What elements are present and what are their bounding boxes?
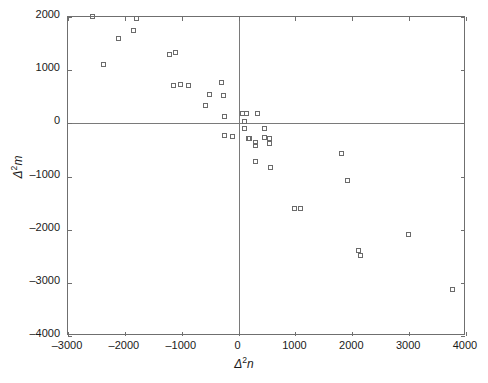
x-axis-tick [125, 332, 126, 336]
y-axis-tick [68, 336, 72, 337]
data-point [171, 83, 176, 88]
data-point [221, 93, 226, 98]
data-point [298, 206, 303, 211]
data-point [101, 62, 106, 67]
y-axis-tick-right [461, 177, 465, 178]
scatter-plot-figure: Δ2n Δ2m –3000–2000–100001000200030004000… [0, 0, 488, 383]
x-axis-tick-top [125, 17, 126, 21]
x-axis-tick-label: –3000 [37, 339, 97, 351]
data-point [356, 248, 361, 253]
y-axis-tick-label: –2000 [8, 221, 60, 233]
data-point [134, 16, 139, 21]
y-axis-tick-right [461, 283, 465, 284]
y-axis-tick [68, 70, 72, 71]
data-point [246, 136, 251, 141]
x-axis-tick-top [182, 17, 183, 21]
x-axis-tick [409, 332, 410, 336]
x-axis-tick-label: –1000 [151, 339, 211, 351]
x-axis-tick [295, 332, 296, 336]
y-axis-tick-label: 1000 [8, 61, 60, 73]
x-axis-tick [466, 332, 467, 336]
y-axis-tick [68, 230, 72, 231]
x-axis-tick-label: 0 [208, 339, 268, 351]
y-axis-tick-label: –4000 [8, 327, 60, 339]
data-point [186, 83, 191, 88]
zero-line-horizontal [68, 123, 464, 124]
x-axis-tick-label: 1000 [264, 339, 324, 351]
data-point [292, 206, 297, 211]
x-axis-tick-label: 4000 [435, 339, 488, 351]
y-axis-tick [68, 177, 72, 178]
data-point [167, 52, 172, 57]
data-point [339, 151, 344, 156]
data-point [262, 126, 267, 131]
data-point [178, 82, 183, 87]
zero-line-vertical [239, 17, 240, 334]
data-point [242, 119, 247, 124]
x-axis-tick-label: 2000 [321, 339, 381, 351]
data-point [230, 134, 235, 139]
plot-area [67, 16, 465, 335]
x-axis-tick-top [352, 17, 353, 21]
data-point [242, 126, 247, 131]
data-point [207, 92, 212, 97]
data-point [253, 143, 258, 148]
x-axis-tick-top [295, 17, 296, 21]
data-point [116, 36, 121, 41]
y-axis-tick-right [461, 230, 465, 231]
data-point [267, 141, 272, 146]
data-point [173, 50, 178, 55]
data-point [253, 159, 258, 164]
data-point [222, 114, 227, 119]
x-axis-tick-label: –2000 [94, 339, 154, 351]
x-axis-tick [182, 332, 183, 336]
data-point [222, 133, 227, 138]
data-point [131, 28, 136, 33]
y-axis-tick-right [461, 70, 465, 71]
data-point [406, 232, 411, 237]
x-axis-tick-label: 3000 [378, 339, 438, 351]
y-axis-tick-right [461, 123, 465, 124]
y-axis-tick-right [461, 336, 465, 337]
data-point [358, 253, 363, 258]
y-axis-tick-right [461, 17, 465, 18]
data-point [345, 178, 350, 183]
x-axis-tick [352, 332, 353, 336]
y-axis-tick-label: –1000 [8, 168, 60, 180]
data-point [268, 165, 273, 170]
y-axis-tick-label: –3000 [8, 274, 60, 286]
y-axis-tick [68, 283, 72, 284]
data-point [203, 103, 208, 108]
x-axis-tick-top [466, 17, 467, 21]
data-point [90, 14, 95, 19]
y-axis-tick [68, 17, 72, 18]
x-axis-tick-top [409, 17, 410, 21]
y-axis-tick [68, 123, 72, 124]
data-point [244, 111, 249, 116]
data-point [255, 111, 260, 116]
y-axis-tick-label: 2000 [8, 8, 60, 20]
x-axis-label: Δ2n [0, 357, 488, 371]
data-point [450, 287, 455, 292]
x-axis-tick [239, 332, 240, 336]
data-point [219, 80, 224, 85]
y-axis-tick-label: 0 [8, 114, 60, 126]
x-axis-tick-top [239, 17, 240, 21]
